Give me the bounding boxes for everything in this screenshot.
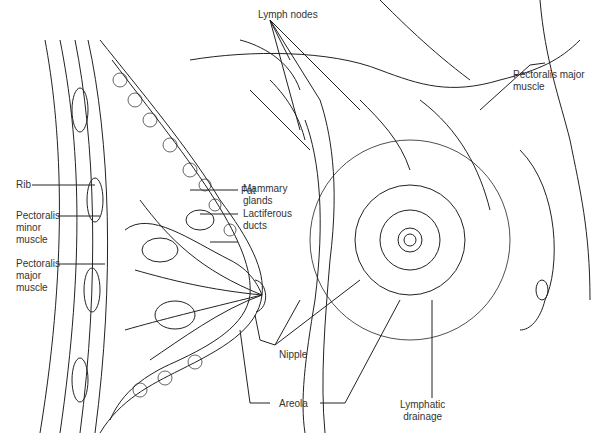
label-lymph-nodes: Lymph nodes [258, 9, 318, 21]
label-mammary-glands: Mammary glands [243, 183, 287, 207]
label-lymphatic-drainage: Lymphatic drainage [400, 399, 445, 423]
label-pectoralis-minor: Pectoralis minor muscle [16, 210, 60, 246]
breast-anatomy-diagram: Lymph nodes Pectoralis major muscle Fat … [0, 0, 596, 433]
label-rib: Rib [16, 179, 31, 191]
label-pectoralis-major-left: Pectoralis major muscle [16, 258, 60, 294]
label-pectoralis-major-right: Pectoralis major muscle [513, 69, 585, 93]
sagittal-section [40, 40, 266, 433]
label-lactiferous-ducts: Lactiferous ducts [243, 208, 292, 232]
anatomy-line-art [0, 0, 596, 433]
label-nipple: Nipple [279, 349, 307, 361]
label-areola: Areola [279, 398, 308, 410]
